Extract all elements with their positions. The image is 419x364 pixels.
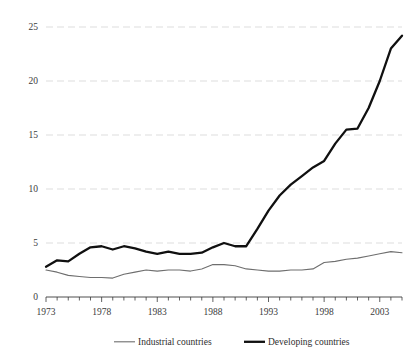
legend-label: Developing countries bbox=[268, 337, 350, 347]
y-axis-tick-label: 0 bbox=[33, 292, 38, 302]
x-axis-tick-label: 1998 bbox=[315, 307, 334, 317]
y-axis-tick-label: 10 bbox=[29, 184, 39, 194]
legend-label: Industrial countries bbox=[138, 337, 212, 347]
x-axis-tick-label: 1993 bbox=[259, 307, 278, 317]
y-axis-tick-label: 25 bbox=[29, 22, 39, 32]
x-axis-tick-label: 1978 bbox=[92, 307, 111, 317]
x-axis-tick-label: 1973 bbox=[37, 307, 56, 317]
y-axis-tick-label: 20 bbox=[29, 76, 39, 86]
chart-canvas: 0510152025 1973197819831988199319982003 … bbox=[0, 0, 419, 364]
x-axis-tick-label: 1988 bbox=[203, 307, 222, 317]
x-axis-tick-label: 2003 bbox=[370, 307, 389, 317]
line-chart: 0510152025 1973197819831988199319982003 … bbox=[0, 0, 419, 364]
x-axis-tick-label: 1983 bbox=[148, 307, 167, 317]
y-axis-tick-label: 5 bbox=[33, 238, 38, 248]
y-axis-tick-label: 15 bbox=[29, 130, 39, 140]
